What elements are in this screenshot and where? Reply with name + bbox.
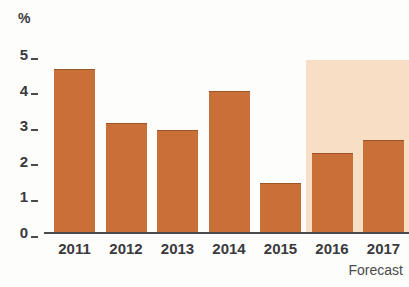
y-axis-tick-mark-icon	[31, 129, 38, 131]
y-axis-tick-label: 2	[14, 154, 28, 170]
y-axis-tick-label: 3	[14, 118, 28, 134]
y-axis-tick-2: 2	[14, 154, 48, 170]
y-axis-tick-label: 5	[14, 47, 28, 63]
x-axis-label-2014: 2014	[209, 240, 250, 257]
y-axis-tick-mark-icon	[31, 236, 38, 238]
x-axis-label-2015: 2015	[260, 240, 301, 257]
y-axis-tick-mark-icon	[31, 93, 38, 95]
bar-2013	[157, 130, 198, 234]
y-axis-tick-3: 3	[14, 118, 48, 134]
y-axis-tick-mark-icon	[31, 58, 38, 60]
y-axis-tick-5: 5	[14, 47, 48, 63]
y-axis-tick-label: 1	[14, 189, 28, 205]
forecast-caption: Forecast	[349, 262, 403, 278]
bar-2011	[54, 69, 95, 234]
y-axis-tick-label: 4	[14, 83, 28, 99]
y-axis-tick-label: 0	[14, 225, 28, 241]
bar-2016	[312, 153, 353, 234]
bar-2014	[209, 91, 250, 234]
x-axis-label-2017: 2017	[363, 240, 404, 257]
y-axis-tick-mark-icon	[31, 164, 38, 166]
bar-chart: % 5 4 3 2 1 0 Forecast 20112012201320142…	[0, 0, 409, 287]
bar-2012	[106, 123, 147, 234]
y-axis-unit-label: %	[18, 10, 30, 26]
x-axis-label-2011: 2011	[54, 240, 95, 257]
bar-2015	[260, 183, 301, 234]
x-axis-line	[44, 232, 409, 234]
x-axis-label-2016: 2016	[312, 240, 353, 257]
y-axis-tick-1: 1	[14, 189, 48, 205]
x-axis-label-2012: 2012	[106, 240, 147, 257]
plot-area	[47, 18, 409, 235]
y-axis-tick-mark-icon	[31, 200, 38, 202]
y-axis-tick-4: 4	[14, 83, 48, 99]
x-axis-label-2013: 2013	[157, 240, 198, 257]
bar-2017	[363, 140, 404, 234]
y-axis-tick-0: 0	[14, 225, 48, 241]
